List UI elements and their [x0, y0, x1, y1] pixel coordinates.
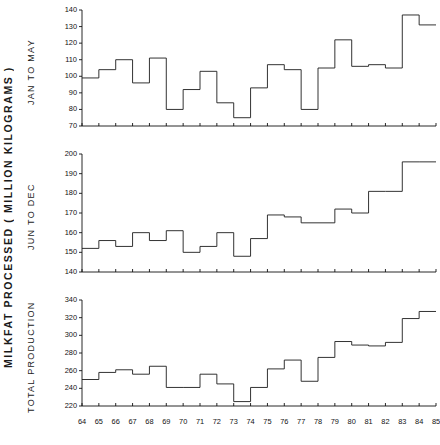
x-tick-label: 68 [145, 417, 153, 426]
chart-panel-jan-to-may: 708090100110120130140 [60, 8, 438, 138]
y-tick-label: 70 [69, 121, 77, 130]
x-tick-label: 78 [314, 417, 322, 426]
y-tick-label: 80 [69, 104, 77, 113]
x-tick-label: 82 [381, 417, 389, 426]
y-tick-label: 130 [65, 22, 77, 31]
panel-label-total-production: TOTAL PRODUCTION [26, 298, 36, 416]
x-tick-label: 80 [348, 417, 356, 426]
y-tick-label: 170 [65, 208, 77, 217]
y-tick-label: 180 [65, 188, 77, 197]
y-tick-label: 110 [65, 55, 77, 64]
y-tick-label: 150 [65, 247, 77, 256]
x-tick-label: 65 [95, 417, 103, 426]
x-tick-label: 77 [297, 417, 305, 426]
panel-label-jan-to-may: JAN TO MAY [26, 8, 36, 136]
y-tick-label: 300 [65, 330, 77, 339]
y-tick-label: 100 [65, 71, 77, 80]
chart-panel-jun-to-dec: 140150160170180190200 [60, 152, 438, 284]
y-tick-label: 200 [65, 149, 77, 158]
x-tick-label: 71 [196, 417, 204, 426]
x-tick-label: 70 [179, 417, 187, 426]
y-tick-label: 280 [65, 348, 77, 357]
x-tick-label: 72 [213, 417, 221, 426]
x-tick-label: 75 [263, 417, 271, 426]
x-tick-label: 81 [364, 417, 372, 426]
data-series-line [82, 162, 436, 256]
total-production-svg: 220240260280300320340 [60, 298, 438, 418]
y-tick-label: 340 [65, 295, 77, 304]
x-tick-label: 76 [280, 417, 288, 426]
x-tick-label: 67 [128, 417, 136, 426]
x-tick-label: 84 [415, 417, 423, 426]
jan-to-may-svg: 708090100110120130140 [60, 8, 438, 138]
y-tick-label: 140 [65, 267, 77, 276]
x-tick-label: 85 [432, 417, 440, 426]
y-tick-label: 140 [65, 5, 77, 14]
chart-panel-total-production: 220240260280300320340 [60, 298, 438, 418]
x-tick-label: 73 [230, 417, 238, 426]
y-tick-label: 160 [65, 228, 77, 237]
x-axis-tick-labels: 6465666768697071727374757677787980818283… [60, 416, 438, 438]
y-tick-label: 220 [65, 401, 77, 410]
y-tick-label: 90 [69, 88, 77, 97]
figure-axis-title: MILKFAT PROCESSED ( MILLION KILOGRAMS ) [2, 52, 14, 382]
x-tick-label: 83 [398, 417, 406, 426]
figure-root: MILKFAT PROCESSED ( MILLION KILOGRAMS ) … [0, 0, 440, 445]
y-tick-label: 190 [65, 169, 77, 178]
data-series-line [82, 311, 436, 401]
x-tick-label: 69 [162, 417, 170, 426]
panel-label-jun-to-dec: JUN TO DEC [26, 152, 36, 282]
y-tick-label: 320 [65, 313, 77, 322]
data-series-line [82, 15, 436, 118]
y-tick-label: 240 [65, 383, 77, 392]
x-tick-label: 74 [246, 417, 254, 426]
y-tick-label: 260 [65, 366, 77, 375]
x-tick-label: 66 [112, 417, 120, 426]
x-axis-labels-svg: 6465666768697071727374757677787980818283… [60, 416, 438, 436]
y-tick-label: 120 [65, 38, 77, 47]
x-tick-label: 79 [331, 417, 339, 426]
jun-to-dec-svg: 140150160170180190200 [60, 152, 438, 284]
x-tick-label: 64 [78, 417, 86, 426]
